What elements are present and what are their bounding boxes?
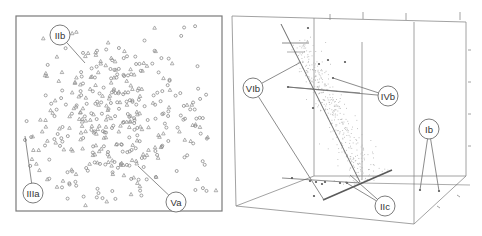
cloud-point xyxy=(338,165,339,166)
cloud-point xyxy=(310,80,311,81)
cloud-point xyxy=(306,81,307,82)
triangle-marker xyxy=(105,104,109,107)
cloud-point xyxy=(354,167,355,168)
triangle-marker xyxy=(61,179,65,182)
circle-marker xyxy=(165,126,168,129)
cloud-point xyxy=(353,162,354,163)
cloud-point xyxy=(339,134,340,135)
cloud-point xyxy=(302,58,303,59)
callout-label: IIIa xyxy=(26,188,40,199)
left-scatter-panel: IIbIIIaVa xyxy=(16,16,222,212)
circle-marker xyxy=(59,144,62,147)
cloud-point xyxy=(328,113,329,114)
triangle-marker xyxy=(106,108,110,111)
callout-label: Ib xyxy=(425,124,433,135)
circle-marker xyxy=(167,110,170,113)
cloud-point xyxy=(338,119,339,120)
cloud-point xyxy=(336,124,337,125)
cloud-point xyxy=(318,88,319,89)
circle-marker xyxy=(157,71,160,74)
cloud-point xyxy=(339,108,340,109)
cloud-point xyxy=(363,150,364,151)
cloud-point xyxy=(362,174,363,175)
cloud-point xyxy=(310,51,311,52)
cloud-point xyxy=(306,70,307,71)
cloud-point xyxy=(351,161,352,162)
circle-marker xyxy=(96,187,99,190)
triangle-marker xyxy=(125,79,129,82)
cloud-point xyxy=(307,40,308,41)
cloud-point xyxy=(311,78,312,79)
circle-marker xyxy=(197,87,200,90)
cloud-point xyxy=(358,175,359,176)
cloud-point xyxy=(309,78,310,79)
thick-ridge-line xyxy=(323,170,392,200)
circle-marker xyxy=(174,94,177,97)
cloud-point xyxy=(356,172,357,173)
cloud-point xyxy=(338,130,339,131)
right-3d-panel: VIbIVbIbIIc xyxy=(232,12,471,224)
cloud-point xyxy=(373,171,374,172)
cloud-point xyxy=(313,92,314,93)
circle-marker xyxy=(180,34,183,37)
circle-marker xyxy=(152,94,155,97)
circle-marker xyxy=(100,112,103,115)
triangle-marker xyxy=(131,87,135,90)
cloud-point xyxy=(338,102,339,103)
cloud-point xyxy=(357,168,358,169)
cloud-point xyxy=(315,72,316,73)
circle-marker xyxy=(125,100,128,103)
cloud-point xyxy=(317,106,318,107)
cloud-point xyxy=(364,159,365,160)
cloud-point xyxy=(319,86,320,87)
cloud-point xyxy=(323,99,324,100)
triangle-marker xyxy=(185,103,189,106)
circle-marker xyxy=(182,104,185,107)
cloud-point xyxy=(304,40,305,41)
cloud-point xyxy=(309,65,310,66)
cloud-point xyxy=(319,82,320,83)
circle-marker xyxy=(102,86,105,89)
data-point xyxy=(344,61,346,63)
cloud-point xyxy=(330,100,331,101)
cloud-point xyxy=(348,130,349,131)
triangle-marker xyxy=(54,141,58,144)
cloud-point xyxy=(330,131,331,132)
cloud-point xyxy=(355,115,356,116)
cloud-point xyxy=(317,61,318,62)
cloud-point xyxy=(346,150,347,151)
triangle-marker xyxy=(110,164,114,167)
callout-label: Va xyxy=(171,197,183,208)
cloud-point xyxy=(337,106,338,107)
cloud-point xyxy=(356,120,357,121)
circle-marker xyxy=(116,73,119,76)
callout-vib: VIb xyxy=(243,62,324,200)
cloud-point xyxy=(318,105,319,106)
cloud-point xyxy=(365,180,366,181)
circle-marker xyxy=(143,105,146,108)
triangle-marker xyxy=(151,101,155,104)
cloud-point xyxy=(351,133,352,134)
cloud-point xyxy=(344,122,345,123)
cloud-point xyxy=(312,69,313,70)
cloud-point xyxy=(331,109,332,110)
cloud-point xyxy=(308,72,309,73)
cloud-point xyxy=(307,54,308,55)
cloud-point xyxy=(345,142,346,143)
cloud-point xyxy=(334,110,335,111)
triangle-marker xyxy=(69,147,73,150)
cloud-point xyxy=(324,99,325,100)
cloud-point xyxy=(341,94,342,95)
triangle-marker xyxy=(35,162,39,165)
cloud-point xyxy=(347,129,348,130)
cloud-point xyxy=(362,168,363,169)
cloud-point xyxy=(364,154,365,155)
cloud-point xyxy=(304,46,305,47)
cloud-point xyxy=(303,44,304,45)
cloud-point xyxy=(350,146,351,147)
cloud-point xyxy=(348,132,349,133)
circle-marker xyxy=(64,103,67,106)
cloud-point xyxy=(310,37,311,38)
cloud-point xyxy=(315,80,316,81)
triangle-marker xyxy=(104,125,108,128)
